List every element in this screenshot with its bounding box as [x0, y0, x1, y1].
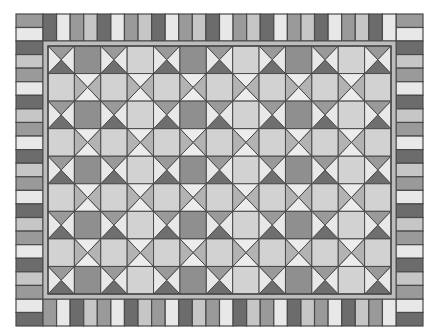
- quilt-block-square-light: [127, 101, 153, 129]
- border-stripe: [138, 299, 152, 326]
- square-patch: [154, 239, 180, 267]
- square-patch: [206, 184, 232, 212]
- quilt-block-hourglass: [312, 46, 338, 74]
- top-border: [43, 14, 396, 41]
- border-stripe: [233, 299, 247, 326]
- quilt-block-square-light: [312, 239, 338, 267]
- border-stripe: [355, 299, 369, 326]
- square-patch: [74, 266, 100, 294]
- quilt-block-square-light: [206, 129, 232, 157]
- border-stripe: [16, 272, 43, 286]
- quilt-block-square-light: [127, 46, 153, 74]
- quilt-block-hourglass: [154, 156, 180, 184]
- quilt-block-x-block: [74, 74, 100, 102]
- quilt-block-square-light: [365, 74, 391, 102]
- quilt-block-square-light: [127, 266, 153, 294]
- quilt-block-square-light: [259, 129, 285, 157]
- square-patch: [338, 266, 364, 294]
- quilt-block-x-block: [285, 239, 311, 267]
- square-patch: [312, 74, 338, 102]
- border-stripe: [179, 299, 193, 326]
- square-patch: [127, 101, 153, 129]
- bottom-border: [43, 299, 396, 326]
- border-stripe: [16, 95, 43, 109]
- square-patch: [48, 184, 74, 212]
- quilt-block-hourglass: [259, 101, 285, 129]
- square-patch: [285, 266, 311, 294]
- quilt-block-square-dark: [180, 266, 206, 294]
- border-stripe: [274, 299, 288, 326]
- quilt-block-square-light: [233, 46, 259, 74]
- quilt-block-x-block: [127, 184, 153, 212]
- quilt-block-square-light: [48, 184, 74, 212]
- quilt-block-square-light: [206, 239, 232, 267]
- border-stripe: [206, 14, 220, 41]
- border-stripe: [260, 14, 274, 41]
- square-patch: [74, 101, 100, 129]
- square-patch: [233, 156, 259, 184]
- border-stripe: [287, 299, 301, 326]
- square-patch: [365, 129, 391, 157]
- square-patch: [233, 266, 259, 294]
- border-stripe: [84, 299, 98, 326]
- quilt-block-hourglass: [312, 101, 338, 129]
- quilt-block-hourglass: [365, 211, 391, 239]
- border-stripe: [16, 41, 43, 55]
- border-stripe: [16, 218, 43, 232]
- corner-stripe: [396, 28, 423, 42]
- quilt-block-hourglass: [312, 156, 338, 184]
- quilt-block-hourglass: [154, 46, 180, 74]
- border-stripe: [396, 82, 423, 96]
- quilt-block-square-light: [48, 239, 74, 267]
- square-patch: [180, 156, 206, 184]
- quilt-block-hourglass: [101, 46, 127, 74]
- border-stripe: [396, 177, 423, 191]
- square-patch: [312, 129, 338, 157]
- border-stripe: [138, 14, 152, 41]
- quilt-block-hourglass: [154, 266, 180, 294]
- square-patch: [180, 211, 206, 239]
- border-stripe: [369, 299, 383, 326]
- border-stripe: [328, 14, 342, 41]
- square-patch: [180, 266, 206, 294]
- quilt-block-x-block: [74, 239, 100, 267]
- quilt-block-square-light: [101, 129, 127, 157]
- square-patch: [154, 74, 180, 102]
- border-stripe: [396, 109, 423, 123]
- border-stripe: [165, 14, 179, 41]
- square-patch: [259, 239, 285, 267]
- border-stripe: [97, 299, 111, 326]
- quilt-block-square-light: [101, 184, 127, 212]
- quilt-block-x-block: [180, 239, 206, 267]
- border-stripe: [396, 163, 423, 177]
- square-patch: [312, 239, 338, 267]
- quilt-block-square-dark: [180, 46, 206, 74]
- square-patch: [101, 74, 127, 102]
- border-stripe: [124, 14, 138, 41]
- border-stripe: [16, 285, 43, 299]
- border-stripe: [97, 14, 111, 41]
- quilt-block-square-light: [154, 129, 180, 157]
- border-stripe: [57, 14, 71, 41]
- quilt-block-square-light: [312, 129, 338, 157]
- border-stripe: [315, 299, 329, 326]
- border-stripe: [396, 285, 423, 299]
- border-stripe: [396, 55, 423, 69]
- square-patch: [48, 74, 74, 102]
- corner-top-right: [396, 14, 423, 41]
- quilt-block-square-dark: [285, 156, 311, 184]
- border-stripe: [396, 231, 423, 245]
- square-patch: [154, 184, 180, 212]
- border-stripe: [165, 299, 179, 326]
- quilt-block-square-light: [233, 156, 259, 184]
- corner-stripe: [16, 28, 43, 42]
- square-patch: [233, 101, 259, 129]
- border-stripe: [84, 14, 98, 41]
- quilt-block-x-block: [233, 74, 259, 102]
- border-stripe: [247, 299, 261, 326]
- quilt-block-square-light: [259, 74, 285, 102]
- square-patch: [206, 74, 232, 102]
- square-patch: [101, 239, 127, 267]
- right-border: [396, 41, 423, 299]
- border-stripe: [16, 109, 43, 123]
